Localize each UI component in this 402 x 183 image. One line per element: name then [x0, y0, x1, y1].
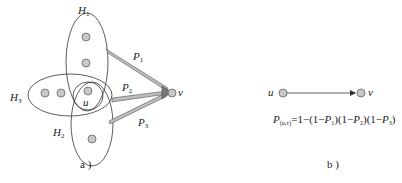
- caption-a: a ): [80, 158, 92, 171]
- hypergraph-figure: H1 H3 H2 u v P1 P2 P3 a ) u v P(u,v)=1−(…: [0, 0, 402, 183]
- label-p2: P2: [121, 81, 133, 95]
- node-u: [84, 87, 92, 95]
- hyperedge-h2: [71, 82, 113, 166]
- node-v: [168, 89, 176, 97]
- label-p3: P3: [137, 116, 149, 130]
- label-h2: H2: [52, 126, 65, 140]
- node-u: [279, 89, 287, 97]
- label-u: u: [268, 86, 274, 98]
- label-v: v: [178, 86, 183, 98]
- node: [57, 89, 65, 97]
- label-v: v: [368, 86, 373, 98]
- hyperedge-h3: [28, 74, 112, 116]
- panel-a: H1 H3 H2 u v P1 P2 P3 a ): [9, 4, 183, 171]
- label-p1: P1: [132, 50, 144, 64]
- node: [41, 89, 49, 97]
- node-v: [357, 89, 365, 97]
- label-u: u: [83, 96, 89, 108]
- caption-b: b ): [327, 158, 339, 171]
- node: [88, 135, 96, 143]
- formula: P(u,v)=1−(1−P1)(1−P2)(1−P3): [272, 113, 396, 127]
- node: [82, 59, 90, 67]
- panel-b: u v P(u,v)=1−(1−P1)(1−P2)(1−P3) b ): [268, 86, 396, 171]
- label-h3: H3: [9, 91, 22, 105]
- nodes: [41, 33, 176, 143]
- label-h1: H1: [77, 4, 90, 18]
- node: [82, 33, 90, 41]
